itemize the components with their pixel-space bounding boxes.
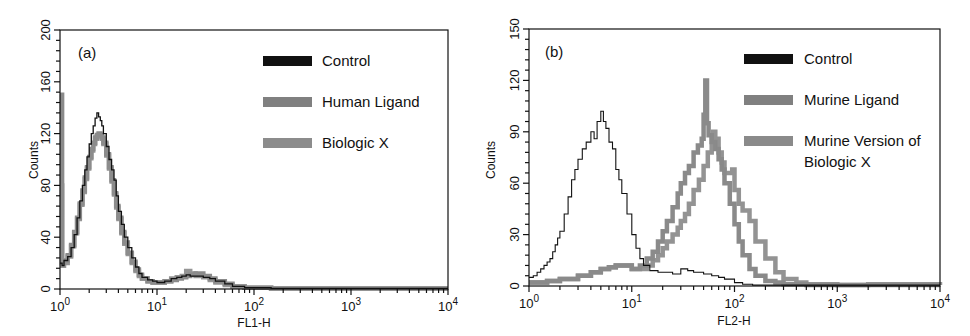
- panel-a-plot-area: [60, 95, 448, 289]
- x-tick-label: 102: [724, 293, 744, 311]
- legend-swatch-murine-ligand: [744, 95, 793, 105]
- y-tick-label: 40: [38, 230, 53, 244]
- panel-a-x-axis-title: FL1-H: [237, 316, 270, 330]
- panel-b-frame: [529, 29, 940, 286]
- x-tick-label: 101: [622, 293, 642, 311]
- figure: 10010110210310404080120160200 (a) Counts…: [0, 0, 970, 336]
- x-tick-label: 102: [244, 296, 264, 314]
- y-tick-label: 0: [38, 285, 53, 292]
- panel-b-x-axis-title: FL2-H: [717, 314, 750, 328]
- series-human-ligand: [60, 95, 448, 289]
- panel-b-y-axis-title: Counts: [484, 141, 498, 179]
- series-control: [60, 113, 448, 289]
- x-tick-label: 100: [50, 296, 70, 314]
- legend-label-murine-biologic-x-line2: Biologic X: [804, 153, 871, 170]
- legend-swatch-control: [744, 54, 793, 64]
- legend-swatch-control: [263, 56, 312, 66]
- y-tick-label: 90: [507, 125, 522, 139]
- legend-label-murine-ligand: Murine Ligand: [804, 91, 899, 108]
- x-tick-label: 104: [438, 296, 458, 314]
- y-tick-label: 30: [507, 227, 522, 241]
- x-tick-label: 100: [519, 293, 539, 311]
- legend-label-control: Control: [804, 50, 852, 67]
- legend-label-biologic-x: Biologic X: [322, 134, 389, 151]
- panel-a-frame: [60, 30, 448, 289]
- x-tick-label: 101: [147, 296, 167, 314]
- y-tick-label: 80: [38, 178, 53, 192]
- y-tick-label: 60: [507, 176, 522, 190]
- y-tick-label: 200: [38, 19, 53, 41]
- panel-b-plot-area: [529, 80, 940, 285]
- x-tick-label: 104: [930, 293, 950, 311]
- legend-label-human-ligand: Human Ligand: [322, 93, 420, 110]
- panel-b: 1001011021031040306090120150 (b) Counts …: [484, 18, 950, 328]
- y-tick-label: 150: [507, 18, 522, 40]
- panel-a-y-axis-title: Counts: [27, 141, 41, 179]
- panel-b-label: (b): [545, 43, 563, 60]
- legend-label-control: Control: [322, 52, 370, 69]
- panel-a: 10010110210310404080120160200 (a) Counts…: [27, 19, 458, 330]
- legend-label-murine-biologic-x-line1: Murine Version of: [804, 132, 922, 149]
- panel-a-label: (a): [78, 44, 96, 61]
- panel-a-axes: 10010110210310404080120160200: [38, 19, 458, 314]
- legend-swatch-biologic-x: [263, 138, 312, 148]
- x-tick-label: 103: [341, 296, 361, 314]
- x-tick-label: 103: [827, 293, 847, 311]
- y-tick-label: 160: [38, 71, 53, 93]
- y-tick-label: 120: [507, 70, 522, 92]
- legend-swatch-murine-biologic-x: [744, 136, 793, 146]
- y-tick-label: 0: [507, 282, 522, 289]
- panel-b-axes: 1001011021031040306090120150: [507, 18, 950, 311]
- legend-swatch-human-ligand: [263, 97, 312, 107]
- panel-b-legend: Control Murine Ligand Murine Version of …: [744, 50, 922, 170]
- panel-a-legend: Control Human Ligand Biologic X: [263, 52, 420, 151]
